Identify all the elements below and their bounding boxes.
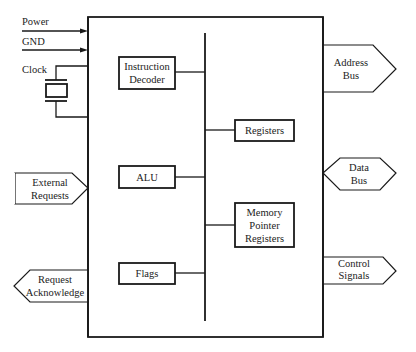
external-requests-signal: External Requests — [14, 173, 88, 204]
clock-crystal: Clock — [22, 64, 88, 117]
alu-label: ALU — [136, 172, 158, 183]
crystal-icon — [46, 84, 67, 97]
alu-block: ALU — [119, 166, 205, 188]
control-signals-label-2: Signals — [339, 270, 370, 281]
data-bus-label-2: Bus — [351, 175, 367, 186]
clock-wire-top — [56, 66, 88, 80]
memory-pointer-label-2: Pointer — [249, 220, 280, 231]
address-bus-arrow-icon — [323, 45, 396, 92]
clock-wire-bottom — [56, 101, 88, 117]
gnd-input: GND — [22, 36, 88, 53]
microprocessor-diagram: Power GND Clock Instruction Decoder Regi… — [0, 0, 416, 352]
instruction-decoder-label-1: Instruction — [124, 61, 170, 72]
power-label: Power — [22, 16, 49, 27]
external-requests-label-2: Requests — [31, 190, 69, 201]
memory-pointer-registers-block: Memory Pointer Registers — [205, 203, 294, 247]
power-input: Power — [22, 16, 88, 34]
flags-label: Flags — [136, 268, 159, 279]
flags-block: Flags — [119, 263, 205, 284]
memory-pointer-label-3: Registers — [245, 233, 284, 244]
gnd-arrow-icon — [80, 48, 88, 53]
instruction-decoder-block: Instruction Decoder — [119, 57, 205, 89]
data-bus-signal: Data Bus — [323, 158, 396, 190]
gnd-label: GND — [22, 36, 45, 47]
power-arrow-icon — [80, 29, 88, 34]
request-acknowledge-label-1: Request — [38, 274, 72, 285]
address-bus-signal: Address Bus — [323, 45, 396, 92]
external-requests-label-1: External — [32, 177, 68, 188]
instruction-decoder-label-2: Decoder — [129, 74, 165, 85]
address-bus-label-1: Address — [334, 57, 368, 68]
data-bus-label-1: Data — [349, 162, 369, 173]
request-acknowledge-signal: Request Acknowledge — [14, 270, 88, 302]
clock-label: Clock — [22, 64, 48, 75]
registers-label: Registers — [245, 125, 284, 136]
request-acknowledge-label-2: Acknowledge — [26, 287, 85, 298]
control-signals-signal: Control Signals — [323, 257, 396, 284]
registers-block: Registers — [205, 120, 294, 141]
control-signals-label-1: Control — [338, 258, 370, 269]
memory-pointer-label-1: Memory — [246, 207, 283, 218]
address-bus-label-2: Bus — [343, 70, 359, 81]
